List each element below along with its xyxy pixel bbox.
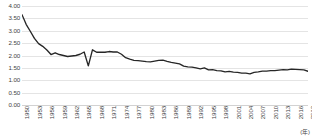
line-series-svg: [22, 6, 308, 105]
x-axis-tick-label: 2001: [236, 106, 242, 119]
x-axis-tick-label: 1953: [37, 106, 43, 119]
x-axis-tick-label: 1992: [198, 106, 204, 119]
x-axis-unit-label: (年): [300, 130, 310, 136]
y-axis-tick-label: 3.50: [9, 15, 20, 21]
y-axis-tick-label: 3.00: [9, 28, 20, 34]
plot-area: [22, 6, 308, 105]
x-axis: (年) 195019531956195919621965196819711974…: [22, 105, 308, 138]
x-axis-tick-label: 2013: [285, 106, 291, 119]
x-axis-tick-label: 2010: [273, 106, 279, 119]
x-axis-tick-label: 2004: [248, 106, 254, 119]
x-axis-tick-label: 1989: [186, 106, 192, 119]
x-axis-tick-label: 2016: [298, 106, 304, 119]
x-axis-tick-label: 2007: [260, 106, 266, 119]
x-axis-tick-label: 1962: [74, 106, 80, 119]
y-axis-tick-label: 0.00: [9, 102, 20, 108]
x-axis-tick-label: 1983: [161, 106, 167, 119]
series-line-fertility-rate: [22, 15, 308, 74]
x-axis-tick-label: 2019: [310, 106, 312, 119]
x-axis-tick-label: 1968: [99, 106, 105, 119]
x-axis-tick-label: 1956: [49, 106, 55, 119]
y-axis-tick-label: 1.50: [9, 65, 20, 71]
y-axis: 0.000.501.001.502.002.503.003.504.00: [0, 6, 22, 105]
x-axis-tick-label: 1965: [86, 106, 92, 119]
y-axis-tick-label: 4.00: [9, 3, 20, 9]
chart-container: 0.000.501.001.502.002.503.003.504.00 (年)…: [0, 0, 312, 138]
y-axis-tick-label: 1.00: [9, 77, 20, 83]
x-axis-tick-label: 1986: [173, 106, 179, 119]
x-axis-tick-label: 1977: [136, 106, 142, 119]
x-axis-tick-label: 1950: [24, 106, 30, 119]
x-axis-tick-label: 1980: [149, 106, 155, 119]
x-axis-tick-label: 1974: [124, 106, 130, 119]
y-axis-tick-label: 0.50: [9, 90, 20, 96]
y-axis-tick-label: 2.00: [9, 52, 20, 58]
y-axis-tick-label: 2.50: [9, 40, 20, 46]
x-axis-tick-label: 1959: [62, 106, 68, 119]
x-axis-tick-label: 1971: [111, 106, 117, 119]
x-axis-tick-label: 1998: [223, 106, 229, 119]
x-axis-tick-label: 1995: [211, 106, 217, 119]
